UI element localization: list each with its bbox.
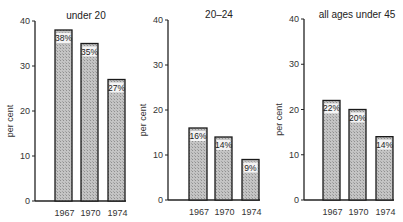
bar-value-label: 22% (323, 103, 340, 113)
y-tick-label: 20 (20, 106, 30, 116)
bar-value-label: 14% (215, 140, 232, 150)
y-tick-label: 30 (289, 59, 299, 69)
bar-value-label: 14% (376, 140, 393, 150)
x-tick-label: 1970 (214, 207, 234, 217)
y-tick-label: 10 (20, 151, 30, 161)
chart-title: under 20 (66, 10, 106, 21)
x-tick-label: 1974 (375, 207, 395, 217)
bar-value-label: 16% (189, 131, 206, 141)
y-axis-label: per cent (5, 104, 15, 137)
bar-value-label: 9% (244, 163, 257, 173)
bar-value-label: 35% (81, 47, 98, 57)
x-tick-label: 1967 (54, 208, 74, 218)
x-tick-label: 1967 (322, 207, 342, 217)
x-tick-label: 1974 (107, 208, 127, 218)
y-tick-label: 40 (153, 15, 163, 25)
y-axis-label: per cent (274, 103, 284, 136)
chart-panel-2: 20–24010203040per cent16%196714%19709%19… (138, 9, 262, 217)
y-tick-label: 20 (153, 105, 163, 115)
y-tick-label: 0 (25, 196, 30, 206)
y-tick-label: 40 (289, 14, 299, 24)
chart-canvas: under 20010203040per cent38%196735%19702… (0, 0, 403, 222)
y-tick-label: 40 (20, 16, 30, 26)
x-tick-label: 1967 (189, 207, 209, 217)
bar-value-label: 38% (55, 33, 72, 43)
bar-1967 (55, 30, 72, 201)
chart-panel-3: all ages under 45010203040per cent22%196… (274, 9, 396, 217)
y-tick-label: 0 (158, 195, 163, 205)
bar-1967 (323, 100, 340, 200)
y-tick-label: 0 (294, 195, 299, 205)
x-tick-label: 1974 (241, 207, 261, 217)
y-tick-label: 10 (289, 150, 299, 160)
chart-title: 20–24 (205, 9, 233, 20)
y-tick-label: 20 (289, 105, 299, 115)
bar-value-label: 27% (108, 83, 125, 93)
bar-1970 (81, 44, 98, 202)
x-tick-label: 1970 (80, 208, 100, 218)
y-tick-label: 30 (20, 61, 30, 71)
y-tick-label: 10 (153, 150, 163, 160)
bar-1970 (349, 110, 366, 201)
x-tick-label: 1970 (348, 207, 368, 217)
chart-title: all ages under 45 (319, 9, 396, 20)
bar-1974 (108, 80, 125, 202)
chart-panel-1: under 20010203040per cent38%196735%19702… (5, 10, 128, 218)
y-tick-label: 30 (153, 60, 163, 70)
bar-value-label: 20% (349, 113, 366, 123)
y-axis-label: per cent (138, 103, 148, 136)
